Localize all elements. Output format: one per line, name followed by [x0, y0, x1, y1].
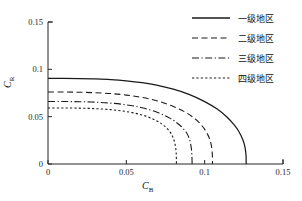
- legend-item: 三级地区: [192, 48, 300, 68]
- chart-legend: 一级地区 二级地区 三级地区 四级地区: [192, 8, 300, 88]
- legend-label-1: 一级地区: [238, 12, 274, 25]
- y-tick-label: 0.15: [28, 17, 43, 27]
- x-axis-title: CB: [142, 180, 153, 194]
- y-axis-title-base: C: [2, 81, 13, 88]
- legend-label-3: 三级地区: [238, 52, 274, 65]
- legend-label-4: 四级地区: [238, 72, 274, 85]
- y-axis-title-subscript: R: [8, 77, 16, 82]
- legend-item: 二级地区: [192, 28, 300, 48]
- series-curve: [48, 92, 213, 164]
- x-tick-label: 0.1: [199, 167, 210, 177]
- x-axis-title-base: C: [142, 180, 149, 191]
- legend-label-2: 二级地区: [238, 32, 274, 45]
- x-tick-label: 0.15: [276, 167, 291, 177]
- y-tick-label: 0.05: [28, 112, 43, 122]
- series-curve: [48, 78, 246, 164]
- legend-item: 四级地区: [192, 68, 300, 88]
- legend-item: 一级地区: [192, 8, 300, 28]
- chart-figure: 00.050.10.1500.050.10.15 CR CB 一级地区 二级地区…: [0, 0, 302, 201]
- y-tick-label: 0.1: [32, 64, 43, 74]
- series-curve: [48, 108, 176, 164]
- y-axis-title: CR: [2, 77, 16, 88]
- y-tick-label: 0: [39, 159, 43, 169]
- x-tick-label: 0: [46, 167, 50, 177]
- x-tick-label: 0.05: [119, 167, 134, 177]
- x-axis-title-subscript: B: [149, 186, 154, 194]
